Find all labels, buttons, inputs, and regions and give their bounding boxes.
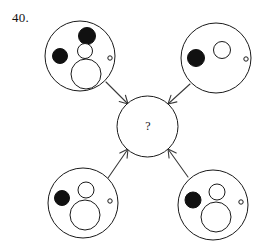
arrow-from-top-left — [106, 82, 128, 104]
panel-bottom-left-medium-white-circle — [78, 182, 94, 198]
panel-bottom-left[interactable] — [48, 168, 118, 238]
panel-top-left-tiny-white-dot-right — [108, 56, 112, 60]
panel-top-right-black-dot-left — [188, 50, 205, 67]
panel-top-right-medium-white-circle — [214, 42, 231, 59]
arrow-from-bottom-right — [168, 149, 188, 177]
panel-top-left-medium-white-circle — [78, 44, 93, 59]
panel-bottom-right-black-dot-left — [185, 192, 201, 208]
arrow-from-top-right-shaft — [168, 84, 190, 104]
arrow-from-bottom-left-shaft — [108, 149, 128, 178]
panel-bottom-right-large-white-circle — [201, 202, 231, 232]
arrow-from-bottom-left — [108, 149, 128, 178]
arrow-from-bottom-right-shaft — [168, 149, 188, 177]
panel-top-left-black-dot-left — [53, 49, 68, 64]
arrow-from-top-right — [168, 84, 190, 104]
panel-top-left-large-black-dot-top — [79, 28, 96, 45]
panel-bottom-left-tiny-white-dot-right — [108, 199, 112, 203]
panel-top-right-tiny-white-dot-right — [244, 57, 248, 61]
panel-top-left-large-white-circle — [71, 59, 101, 89]
panel-bottom-left-black-dot-left — [55, 191, 70, 206]
puzzle-figure: 40. ? — [0, 0, 276, 249]
panel-bottom-right-tiny-white-dot-right — [239, 200, 243, 204]
panel-bottom-right[interactable] — [178, 170, 248, 240]
panel-top-right[interactable] — [181, 23, 251, 93]
analogy-diagram: ? — [0, 0, 276, 249]
answer-circle-group[interactable]: ? — [117, 96, 178, 157]
answer-question-mark: ? — [145, 119, 150, 133]
panel-bottom-right-medium-white-circle — [209, 184, 225, 200]
panel-bottom-left-large-white-circle — [70, 200, 100, 230]
panel-top-left[interactable] — [45, 21, 115, 91]
arrow-from-top-left-shaft — [106, 82, 128, 104]
